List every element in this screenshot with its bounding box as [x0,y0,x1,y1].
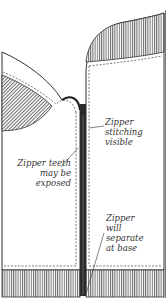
label-line: will [106,223,143,233]
label-zipper-stitching-visible: Zipper stitching visible [105,117,143,147]
label-line: at base [106,243,143,253]
label-line: stitching [105,127,143,137]
zipper [80,104,86,296]
label-line: separate [106,233,143,243]
label-line: exposed [11,178,71,188]
label-zipper-separate-base: Zipper will separate at base [106,213,143,253]
label-line: Zipper [106,213,143,223]
label-line: Zipper [105,117,143,127]
label-line: visible [105,137,143,147]
label-zipper-teeth-exposed: Zipper teeth may be exposed [11,158,71,188]
zipper-diagram [0,0,168,307]
label-line: may be [11,168,71,178]
label-line: Zipper teeth [11,158,71,168]
